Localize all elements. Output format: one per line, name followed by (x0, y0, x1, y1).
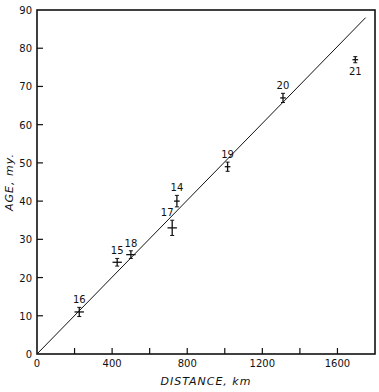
data-point-21: 21 (349, 57, 362, 77)
x-tick-label: 0 (34, 358, 40, 369)
data-point-18: 18 (125, 238, 138, 259)
x-axis-title: DISTANCE, km (161, 375, 252, 388)
y-axis-ticks: 0102030405060708090 (19, 5, 43, 360)
data-point-14: 14 (171, 182, 184, 206)
data-point-17: 17 (161, 207, 177, 235)
point-label: 20 (277, 80, 290, 91)
y-tick-label: 90 (19, 5, 32, 16)
y-axis-title: AGE, my. (3, 153, 16, 212)
point-label: 15 (111, 245, 124, 256)
x-tick-label: 1200 (250, 358, 275, 369)
y-tick-label: 30 (19, 234, 32, 245)
point-label: 19 (221, 149, 234, 160)
y-tick-label: 20 (19, 273, 32, 284)
data-point-16: 16 (73, 294, 86, 316)
point-label: 16 (73, 294, 86, 305)
y-tick-label: 40 (19, 196, 32, 207)
data-point-15: 15 (111, 245, 124, 266)
y-tick-label: 80 (19, 43, 32, 54)
y-tick-label: 60 (19, 120, 32, 131)
y-tick-label: 0 (26, 349, 32, 360)
data-points: 1615181714192021 (73, 57, 362, 317)
point-label: 17 (161, 207, 174, 218)
x-tick-label: 1600 (325, 358, 350, 369)
fit-line (37, 18, 366, 354)
data-point-20: 20 (277, 80, 290, 102)
age-distance-chart: 040080012001600 0102030405060708090 1615… (0, 0, 379, 392)
y-tick-label: 10 (19, 311, 32, 322)
data-point-19: 19 (221, 149, 234, 171)
point-label: 14 (171, 182, 184, 193)
x-tick-label: 400 (103, 358, 122, 369)
x-axis-ticks: 040080012001600 (34, 348, 350, 369)
x-tick-label: 800 (178, 358, 197, 369)
point-label: 21 (349, 66, 362, 77)
point-label: 18 (125, 238, 138, 249)
y-tick-label: 70 (19, 81, 32, 92)
y-tick-label: 50 (19, 158, 32, 169)
